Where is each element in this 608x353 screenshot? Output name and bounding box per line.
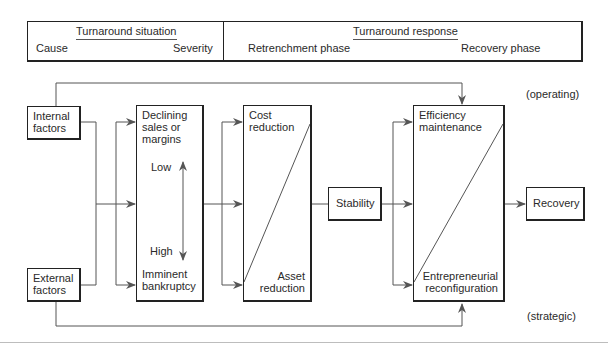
internal-factors-box: Internal factors <box>27 106 81 140</box>
external-factors-box: External factors <box>27 268 81 302</box>
bottom-rule <box>0 342 608 343</box>
imminent-line2: bankruptcy <box>142 280 196 293</box>
severity-box: Declining sales or margins Low High Immi… <box>136 105 204 302</box>
efficiency-line2: maintenance <box>419 121 482 134</box>
cost-line2: reduction <box>249 121 294 134</box>
stability-label: Stability <box>336 197 375 210</box>
recovery-strategy-box: Efficiency maintenance Entrepreneurial r… <box>413 105 505 302</box>
high-label: High <box>150 245 173 258</box>
low-label: Low <box>151 161 171 174</box>
strategic-annotation: (strategic) <box>527 310 576 323</box>
recovery-label: Recovery <box>533 197 579 210</box>
declining-line3: margins <box>142 133 181 146</box>
stability-box: Stability <box>328 187 382 221</box>
internal-factors-line2: factors <box>33 122 66 135</box>
entrepreneurial-line2: reconfiguration <box>425 282 498 295</box>
external-factors-line2: factors <box>33 284 66 297</box>
retrenchment-box: Cost reduction Asset reduction <box>243 105 312 302</box>
asset-line2: reduction <box>260 282 305 295</box>
recovery-box: Recovery <box>526 187 585 221</box>
operating-annotation: (operating) <box>526 88 579 101</box>
